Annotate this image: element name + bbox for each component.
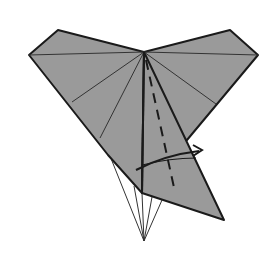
- origami-diagram: [0, 0, 278, 254]
